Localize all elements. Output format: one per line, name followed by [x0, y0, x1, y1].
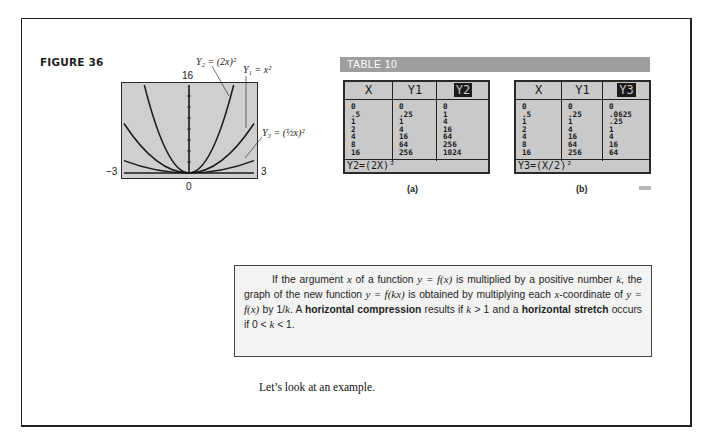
calc-table-a: X 0.5124816 Y1 0.25141664256 Y2 01416642… [343, 80, 490, 174]
column-header-selected: Y3 [603, 83, 650, 97]
rule-box: If the argument x of a function y = f(x)… [234, 265, 652, 357]
column-y2: Y2 01416642561024 [436, 82, 489, 161]
example-text: Let’s look at an example. [259, 381, 375, 393]
column-header: Y1 [562, 83, 603, 97]
column-values: 0.25141664256 [568, 103, 582, 156]
column-y1: Y1 0.25141664256 [392, 82, 437, 161]
formula-line: Y2=(2X)² [345, 159, 488, 172]
column-y3: Y3 0.0625.25141664 [602, 82, 650, 161]
column-x: X 0.5124816 [516, 82, 561, 161]
decorative-mark [639, 186, 651, 190]
caption-a: (a) [407, 184, 418, 194]
rule-text: If the argument x of a function y = f(x)… [244, 272, 642, 332]
column-header: X [345, 83, 392, 97]
column-header-selected: Y2 [437, 83, 489, 97]
column-values: 0.5124816 [522, 103, 531, 156]
column-header: Y1 [393, 83, 437, 97]
table-title: TABLE 10 [347, 58, 397, 70]
formula-line: Y3=(X/2)² [516, 159, 649, 172]
column-values: 0.0625.25141664 [609, 103, 632, 156]
column-y1: Y1 0.25141664256 [561, 82, 603, 161]
caption-b: (b) [576, 184, 588, 194]
column-x: X 0.5124816 [345, 82, 392, 161]
column-header: X [516, 83, 561, 97]
column-values: 0.25141664256 [399, 103, 413, 156]
calc-table-b: X 0.5124816 Y1 0.25141664256 Y3 0.0625.2… [514, 80, 651, 174]
table-title-banner: TABLE 10 [340, 57, 650, 72]
column-values: 01416642561024 [443, 103, 461, 156]
column-values: 0.5124816 [351, 103, 360, 156]
